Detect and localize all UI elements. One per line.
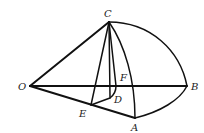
segment-ed [91, 98, 110, 105]
label-a: A [130, 122, 138, 133]
label-o: O [18, 81, 26, 92]
label-f: F [119, 72, 128, 83]
label-b: B [190, 81, 198, 92]
label-c: C [104, 8, 112, 19]
label-d: D [113, 94, 122, 105]
label-e: E [78, 108, 87, 119]
geometry-diagram: C O B F D E A [0, 0, 204, 133]
arc-ab [135, 86, 187, 118]
